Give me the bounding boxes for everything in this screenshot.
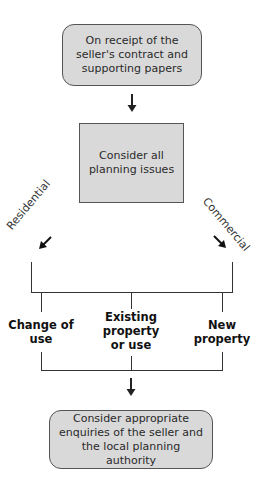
arrow-down-icon (126, 94, 138, 114)
start-node: On receipt of the seller's contract and … (62, 24, 202, 86)
arrow-down-right-icon (212, 234, 228, 250)
bracket-right-vertical (232, 262, 233, 292)
drop-right (222, 292, 223, 312)
rise-left (41, 352, 42, 370)
start-node-text: On receipt of the seller's contract and … (73, 34, 191, 76)
rise-right (222, 352, 223, 370)
drop-center (131, 292, 132, 309)
consider-planning-text: Consider all planning issues (88, 149, 175, 177)
drop-left (41, 292, 42, 312)
branch-label-residential: Residential (4, 178, 53, 233)
consider-planning-node: Consider all planning issues (79, 123, 184, 203)
bracket-bottom-horizontal (41, 370, 223, 371)
arrow-down-left-icon (38, 235, 54, 251)
bracket-left-vertical (31, 262, 32, 292)
option-new-property: New property (187, 318, 257, 346)
option-change-of-use: Change of use (6, 318, 76, 346)
end-node: Consider appropriate enquiries of the se… (49, 410, 213, 469)
bracket-top-horizontal (31, 292, 233, 293)
option-existing-property: Existing property or use (96, 310, 166, 352)
rise-center (131, 356, 132, 370)
end-node-text: Consider appropriate enquiries of the se… (56, 412, 206, 468)
arrow-down-icon (125, 378, 137, 398)
